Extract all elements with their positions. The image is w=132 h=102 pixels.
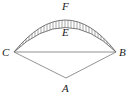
vertex-label-b: B <box>119 47 126 58</box>
geometry-figure: F E C B A <box>0 0 132 102</box>
segment-ca <box>14 52 66 78</box>
segment-ab <box>66 52 116 78</box>
vertex-label-a: A <box>62 83 69 94</box>
vertex-label-c: C <box>2 47 9 58</box>
vertex-label-e: E <box>62 27 69 38</box>
vertex-label-f: F <box>62 1 69 12</box>
